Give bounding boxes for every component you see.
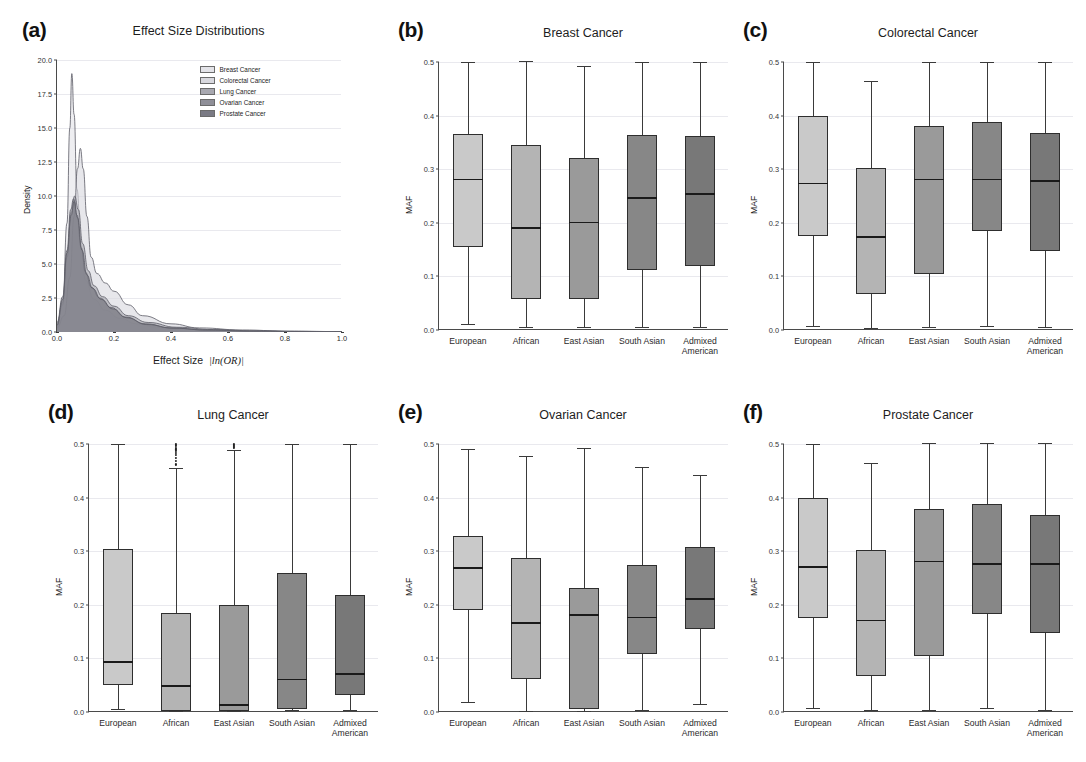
legend-swatch-1	[200, 77, 215, 84]
whisker-lower	[929, 656, 930, 710]
boxplot-box[interactable]	[856, 168, 886, 293]
legend-item-1[interactable]: Colorectal Cancer	[200, 75, 271, 86]
x-tick-label-e-1[interactable]: African	[513, 718, 540, 728]
boxplot-box[interactable]	[219, 605, 249, 711]
whisker-cap-lower	[922, 327, 935, 328]
panel-label-a: (a)	[22, 18, 46, 42]
legend-label: Prostate Cancer	[220, 110, 266, 117]
y-tick-mark	[86, 658, 89, 659]
x-tick-label-d-0[interactable]: European	[99, 718, 136, 728]
boxplot-box[interactable]	[103, 549, 133, 686]
x-tick-label-f-0[interactable]: European	[794, 718, 831, 728]
boxplot-median	[1030, 563, 1060, 565]
y-tick-mark	[436, 604, 439, 605]
x-tick-label-e-3[interactable]: South Asian	[619, 718, 665, 728]
boxplot-box[interactable]	[569, 158, 599, 298]
x-tick-label-e-0[interactable]: European	[449, 718, 486, 728]
whisker-upper	[526, 456, 527, 558]
x-tick-label-b-4[interactable]: Admixed American	[682, 336, 718, 356]
boxplot-box[interactable]	[569, 588, 599, 710]
y-tick-label: 17.5	[38, 90, 52, 99]
boxplot-box[interactable]	[511, 145, 541, 299]
whisker-cap-upper	[922, 443, 935, 444]
panel-label-b: (b)	[398, 18, 423, 42]
whisker-upper	[642, 62, 643, 135]
boxplot-box[interactable]	[798, 498, 828, 619]
x-tick-label-c-3[interactable]: South Asian	[964, 336, 1010, 346]
x-tick-label-c-2[interactable]: East Asian	[909, 336, 950, 346]
boxplot-box[interactable]	[277, 573, 307, 710]
boxplot-box[interactable]	[335, 595, 365, 695]
y-tick-label: 0.1	[769, 654, 779, 663]
x-tick-label-f-2[interactable]: East Asian	[909, 718, 950, 728]
x-tick-label-d-2[interactable]: East Asian	[214, 718, 255, 728]
whisker-cap-upper	[343, 444, 356, 445]
legend-item-0[interactable]: Breast Cancer	[200, 64, 271, 75]
y-tick-label: 0.4	[769, 493, 779, 502]
whisker-upper	[176, 468, 177, 613]
y-tick-label: 0.4	[424, 493, 434, 502]
boxplot-outlier	[175, 460, 177, 462]
x-tick-label-d-1[interactable]: African	[163, 718, 190, 728]
whisker-cap-upper	[806, 444, 819, 445]
whisker-cap-lower	[980, 708, 993, 709]
y-tick-label: 0.3	[424, 165, 434, 174]
boxplot-box[interactable]	[627, 135, 657, 270]
x-tick-label-b-0[interactable]: European	[449, 336, 486, 346]
x-tick-label-c-0[interactable]: European	[794, 336, 831, 346]
legend-item-4[interactable]: Prostate Cancer	[200, 108, 271, 119]
x-tick-label-c-1[interactable]: African	[858, 336, 885, 346]
boxplot-box[interactable]	[914, 126, 944, 273]
boxplot-box[interactable]	[453, 536, 483, 610]
x-tick-label-f-1[interactable]: African	[858, 718, 885, 728]
boxplot-box[interactable]	[798, 116, 828, 237]
legend-item-3[interactable]: Ovarian Cancer	[200, 97, 271, 108]
y-tick-label: 0.0	[42, 328, 52, 337]
y-tick-mark	[781, 169, 784, 170]
x-tick-label-b-1[interactable]: African	[513, 336, 540, 346]
density-area-4	[57, 201, 342, 332]
y-tick-mark	[436, 169, 439, 170]
boxplot-box[interactable]	[1030, 133, 1060, 251]
x-axis-label-a: Effect Size |ln(OR)|	[56, 354, 341, 366]
x-tick-label-f-4[interactable]: Admixed American	[1027, 718, 1063, 738]
boxplot-box[interactable]	[914, 509, 944, 655]
whisker-cap-lower	[461, 702, 474, 703]
x-tick-label-b-2[interactable]: East Asian	[564, 336, 605, 346]
boxplot-box[interactable]	[685, 136, 715, 266]
y-tick-mark	[436, 62, 439, 63]
y-tick-label: 0.2	[74, 600, 84, 609]
boxplot-median	[219, 704, 249, 706]
whisker-cap-upper	[169, 468, 182, 469]
boxplot-box[interactable]	[511, 558, 541, 679]
x-tick-label-f-3[interactable]: South Asian	[964, 718, 1010, 728]
boxplot-median	[511, 227, 541, 229]
whisker-upper	[813, 62, 814, 116]
whisker-upper	[871, 81, 872, 168]
whisker-cap-upper	[693, 475, 706, 476]
whisker-cap-upper	[980, 62, 993, 63]
y-axis-label-d: MAF	[54, 578, 64, 596]
boxplot-box[interactable]	[685, 547, 715, 629]
x-tick-label-b-3[interactable]: South Asian	[619, 336, 665, 346]
boxplot-box[interactable]	[453, 134, 483, 247]
legend-item-2[interactable]: Lung Cancer	[200, 86, 271, 97]
x-tick-label-e-4[interactable]: Admixed American	[682, 718, 718, 738]
whisker-upper	[1045, 62, 1046, 133]
x-tick-label-d-4[interactable]: Admixed American	[332, 718, 368, 738]
y-tick-mark	[86, 712, 89, 713]
boxplot-box[interactable]	[972, 504, 1002, 614]
boxplot-box[interactable]	[856, 550, 886, 675]
whisker-cap-upper	[693, 62, 706, 63]
boxplot-box[interactable]	[627, 565, 657, 655]
plot-area-a: 0.02.55.07.510.012.515.017.520.00.00.20.…	[56, 60, 341, 332]
x-tick-label-d-3[interactable]: South Asian	[269, 718, 315, 728]
boxplot-box[interactable]	[972, 122, 1002, 231]
boxplot-box[interactable]	[1030, 515, 1060, 633]
y-tick-label: 0.4	[424, 111, 434, 120]
boxplot-box[interactable]	[161, 613, 191, 711]
x-tick-label-e-2[interactable]: East Asian	[564, 718, 605, 728]
whisker-lower	[526, 299, 527, 327]
whisker-lower	[987, 231, 988, 326]
x-tick-label-c-4[interactable]: Admixed American	[1027, 336, 1063, 356]
